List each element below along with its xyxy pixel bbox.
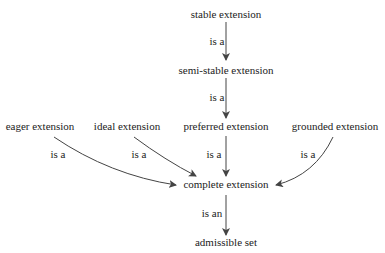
edge-label-grounded-complete: is a (301, 148, 316, 160)
diagram-canvas: stable extension semi-stable extension e… (0, 0, 385, 253)
edge-label-preferred-complete: is a (207, 148, 222, 160)
node-admissible-set: admissible set (195, 236, 257, 248)
edge-eager-to-complete (54, 137, 176, 185)
node-eager-extension: eager extension (6, 120, 75, 132)
edge-label-stable-semi: is a (210, 35, 225, 47)
edge-grounded-to-complete (276, 137, 333, 185)
edge-label-eager-complete: is a (51, 148, 66, 160)
edge-label-semi-preferred: is a (210, 91, 225, 103)
node-preferred-extension: preferred extension (183, 120, 269, 132)
edge-label-ideal-complete: is a (132, 148, 147, 160)
node-grounded-extension: grounded extension (292, 120, 379, 132)
node-ideal-extension: ideal extension (94, 120, 161, 132)
node-semi-stable-extension: semi-stable extension (178, 64, 274, 76)
node-stable-extension: stable extension (191, 8, 262, 20)
extension-hierarchy-diagram: stable extension semi-stable extension e… (0, 0, 385, 253)
node-complete-extension: complete extension (183, 178, 269, 190)
edge-label-complete-admissible: is an (202, 207, 223, 219)
